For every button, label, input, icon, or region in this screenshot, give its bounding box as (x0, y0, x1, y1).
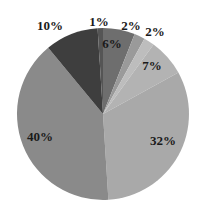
slice-label: 40% (27, 129, 53, 144)
slice-label: 6% (102, 36, 122, 51)
pie-slices (17, 28, 189, 200)
slice-label: 1% (89, 14, 109, 29)
slice-label: 2% (121, 18, 141, 33)
pie-chart: 6%2%2%7%32%40%10%1% (0, 0, 205, 214)
slice-label: 10% (37, 18, 63, 33)
slice-label: 7% (142, 58, 162, 73)
slice-label: 32% (150, 133, 176, 148)
slice-label: 2% (145, 24, 165, 39)
